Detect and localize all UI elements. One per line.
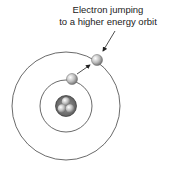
annotation-pointer-arrow <box>103 31 115 51</box>
outer-electron <box>92 55 103 66</box>
atom-diagram <box>0 0 169 175</box>
jump-arrow <box>77 65 90 74</box>
inner-electron <box>67 74 78 85</box>
nucleus <box>56 96 77 117</box>
